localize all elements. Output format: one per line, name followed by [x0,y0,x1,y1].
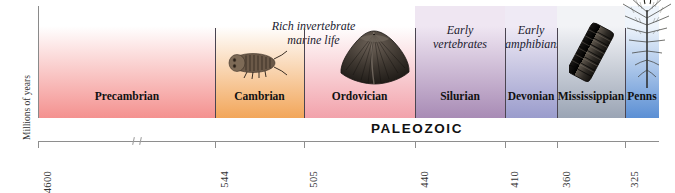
period-label-pennsylvanian: Penns [625,90,659,102]
period-note-silurian: Early vertebrates [415,24,505,52]
period-color-band: Precambrian [39,6,659,118]
axis-tick-label-440: 440 [419,171,430,188]
period-label-devonian: Devonian [505,90,557,102]
period-label-ordovician: Ordovician [304,90,415,102]
axis-tick-label-360: 360 [561,171,572,188]
axis-tick-325 [625,141,626,148]
era-label-paleozoic: PALEOZOIC [215,119,659,139]
axis-tick-label-505: 505 [308,171,319,188]
fern-plant-fossil-icon [621,0,675,88]
note-line-1: Early [518,23,545,37]
time-axis-line [38,141,659,142]
period-block-silurian[interactable]: Early vertebrates Silurian [415,6,505,118]
axis-tick-4600 [38,141,39,148]
period-divider-440 [415,28,416,124]
note-line-2: vertebrates [433,37,487,51]
period-block-ordovician[interactable]: Rich invertebratemarine life Ordovician [304,6,415,118]
axis-tick-410 [505,141,506,148]
period-divider-325 [625,28,626,124]
period-label-silurian: Silurian [415,90,505,102]
note-line-1: Early [447,23,474,37]
axis-tick-440 [415,141,416,148]
period-label-cambrian: Cambrian [215,90,304,102]
note-line-1: Rich invertebrate [226,20,401,34]
period-divider-410 [505,28,506,124]
period-block-devonian[interactable]: Early amphibians Devonian [505,6,557,118]
period-block-precambrian[interactable]: Precambrian [39,6,215,118]
axis-caption-millions-of-years: Millions of years [22,75,32,140]
note-line-2: marine life [226,34,401,48]
period-label-mississippian: Mississippian [557,90,625,102]
axis-tick-360 [557,141,558,148]
axis-tick-label-544: 544 [219,171,230,188]
axis-tick-label-410: 410 [509,171,520,188]
crinoid-fossil-icon [569,22,615,84]
period-note-devonian: Early amphibians [505,24,557,52]
note-line-2: amphibians [505,37,561,51]
axis-tick-label-325: 325 [629,171,640,188]
period-label-precambrian: Precambrian [39,90,215,102]
period-divider-544 [215,28,216,124]
period-note-cambrian-ordovician: Rich invertebratemarine life [226,20,401,48]
axis-tick-label-4600: 4600 [42,171,53,193]
period-block-pennsylvanian[interactable]: Penns [625,6,659,118]
period-divider-360 [557,28,558,124]
trilobite-fossil-icon [227,46,289,80]
axis-tick-544 [215,141,216,148]
axis-tick-505 [304,141,305,148]
period-divider-505 [304,28,305,124]
period-block-mississippian[interactable]: Mississippian [557,6,625,118]
